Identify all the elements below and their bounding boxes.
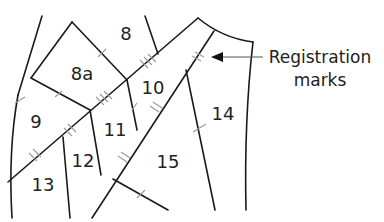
seam-line — [18, 16, 42, 95]
arrow-head-icon — [211, 52, 223, 62]
seam-line-12-13 — [63, 137, 70, 218]
annotation-line1: Registration — [269, 47, 372, 67]
annotation-line2: marks — [294, 70, 347, 90]
registration-mark-double — [118, 152, 130, 162]
piece-label-15: 15 — [157, 151, 180, 172]
registration-mark-triple — [96, 91, 112, 105]
piece-label-8: 8 — [120, 23, 131, 44]
annotation-arrow — [211, 52, 263, 62]
piece-label-8a: 8a — [71, 63, 93, 84]
seam-line-14-15 — [186, 70, 215, 210]
outer-line-right — [246, 42, 253, 210]
piece-label-13: 13 — [32, 174, 55, 195]
pattern-diagram: 8 8a 9 10 11 12 13 14 15 Registration ma… — [0, 0, 384, 222]
outer-curve-left — [11, 95, 18, 218]
seam-line-8-10 — [145, 16, 158, 54]
registration-mark — [193, 124, 206, 132]
piece-label-10: 10 — [142, 77, 165, 98]
piece-label-12: 12 — [72, 150, 95, 171]
outer-curve-top — [198, 18, 253, 42]
piece-label-14: 14 — [212, 103, 235, 124]
piece-label-11: 11 — [104, 119, 127, 140]
registration-mark-double — [150, 102, 162, 112]
registration-mark-double — [29, 149, 41, 161]
piece-label-9: 9 — [30, 111, 41, 132]
